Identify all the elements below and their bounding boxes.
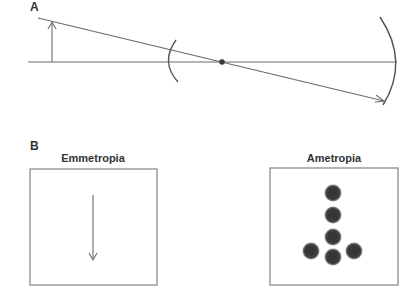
- optics-diagram: [0, 0, 418, 292]
- panel-a: [28, 17, 397, 105]
- emmetropia-box: [30, 169, 157, 285]
- nodal-point: [219, 59, 225, 65]
- chief-ray: [38, 18, 384, 102]
- cornea-arc: [168, 40, 178, 82]
- object-arrow: [48, 22, 56, 62]
- blur-circles: [303, 185, 363, 266]
- ametropia-box: [270, 168, 398, 285]
- sharp-image-arrow: [89, 195, 97, 260]
- retina-arc: [380, 17, 396, 105]
